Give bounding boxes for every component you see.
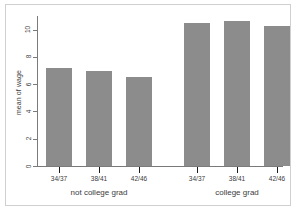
x-tick-label: 38/41 xyxy=(229,175,245,182)
bar xyxy=(86,71,112,166)
x-tick-mark xyxy=(59,167,60,173)
bar xyxy=(126,77,152,166)
bar xyxy=(264,26,290,166)
plot-area xyxy=(37,16,283,166)
y-tick-label-text: 4 xyxy=(26,110,33,114)
y-tick-label-text: 2 xyxy=(26,137,33,141)
bar xyxy=(184,23,210,166)
y-tick-mark xyxy=(33,166,37,167)
y-tick-label: 0 xyxy=(15,160,31,172)
x-tick-mark xyxy=(99,167,100,173)
group-label: college grad xyxy=(215,188,259,197)
y-tick-label-text: 6 xyxy=(26,82,33,86)
x-tick-mark xyxy=(197,167,198,173)
bar-chart-figure: mean of wage 0246810 34/3738/4142/4634/3… xyxy=(0,0,296,211)
x-tick-label: 34/37 xyxy=(189,175,205,182)
x-axis-line xyxy=(37,166,283,167)
x-tick-mark xyxy=(277,167,278,173)
x-tick-mark xyxy=(237,167,238,173)
bar xyxy=(46,68,72,166)
x-tick-label: 42/46 xyxy=(269,175,285,182)
group-label: not college grad xyxy=(71,188,128,197)
y-tick-label: 10 xyxy=(15,24,31,36)
x-tick-label: 34/37 xyxy=(51,175,67,182)
y-tick-label: 6 xyxy=(15,78,31,90)
x-tick-label: 42/46 xyxy=(131,175,147,182)
bar xyxy=(224,21,250,166)
y-tick-label-text: 10 xyxy=(24,26,31,33)
y-tick-label: 2 xyxy=(15,133,31,145)
y-tick-label-text: 0 xyxy=(26,164,33,168)
y-tick-label-text: 8 xyxy=(26,55,33,59)
x-tick-label: 38/41 xyxy=(91,175,107,182)
x-tick-mark xyxy=(139,167,140,173)
y-tick-label: 4 xyxy=(15,105,31,117)
y-tick-label: 8 xyxy=(15,51,31,63)
